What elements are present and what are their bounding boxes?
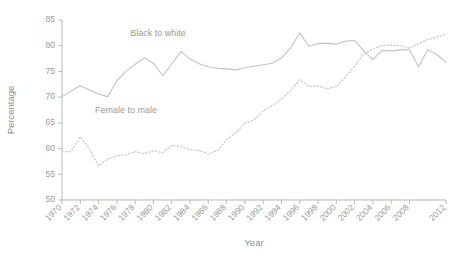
y-tick-label-75: 75 [46,66,56,76]
y-tick-label-85: 85 [46,14,56,24]
x-axis-title: Year [244,237,263,248]
y-tick-label-70: 70 [46,91,56,101]
x-tick-label-1976: 1976 [98,202,119,223]
series-line-0 [62,33,446,97]
x-tick-label-1978: 1978 [116,202,137,223]
x-tick-label-1994: 1994 [262,202,283,223]
x-tick-label-1980: 1980 [134,202,155,223]
x-tick-label-1996: 1996 [281,202,302,223]
series-label-0: Black to white [130,28,186,38]
y-axis-ticks: 5055606570758085 [46,14,62,204]
line-chart: 5055606570758085 19701972197419761978198… [0,0,476,260]
x-tick-label-1992: 1992 [244,202,265,223]
x-tick-label-1970: 1970 [43,202,64,223]
x-tick-label-1988: 1988 [208,202,229,223]
y-tick-label-80: 80 [46,40,56,50]
y-tick-label-60: 60 [46,143,56,153]
series-label-1: Female to male [95,105,157,115]
x-tick-label-1984: 1984 [171,202,192,223]
x-tick-label-1986: 1986 [189,202,210,223]
x-tick-label-2008: 2008 [390,202,411,223]
y-tick-label-65: 65 [46,117,56,127]
chart-container: 5055606570758085 19701972197419761978198… [0,0,476,260]
x-tick-label-2002: 2002 [336,202,357,223]
x-tick-label-2006: 2006 [372,202,393,223]
data-series-group [62,33,446,166]
x-axis-ticks: 1970197219741976197819801982198419861988… [43,200,448,223]
x-tick-label-1998: 1998 [299,202,320,223]
x-tick-label-1972: 1972 [61,202,82,223]
y-tick-label-50: 50 [46,194,56,204]
x-tick-label-2004: 2004 [354,202,375,223]
x-tick-label-1974: 1974 [80,202,101,223]
x-tick-label-2000: 2000 [317,202,338,223]
x-tick-label-2012: 2012 [427,202,448,223]
series-annotations: Black to whiteFemale to male [95,28,186,115]
y-axis-title: Percentage [5,86,16,135]
y-tick-label-55: 55 [46,169,56,179]
series-line-1 [62,34,446,166]
x-tick-label-1982: 1982 [153,202,174,223]
x-tick-label-1990: 1990 [226,202,247,223]
